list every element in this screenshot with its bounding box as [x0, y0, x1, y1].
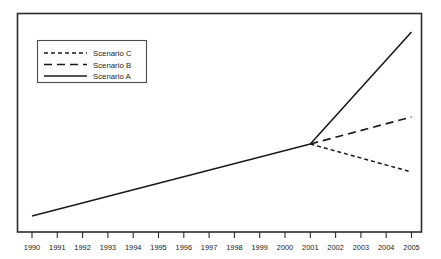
- x-tick-label-2005: 2005: [403, 243, 419, 252]
- x-tick-label-2000: 2000: [277, 243, 293, 252]
- x-tick-label-1992: 1992: [74, 243, 90, 252]
- legend-label-scenario-a: Scenario A: [93, 72, 132, 81]
- x-tick-label-1997: 1997: [201, 243, 217, 252]
- x-tick-label-1990: 1990: [24, 243, 40, 252]
- x-tick-label-1999: 1999: [251, 243, 267, 252]
- x-tick-label-1995: 1995: [150, 243, 166, 252]
- legend-label-scenario-b: Scenario B: [93, 61, 131, 70]
- x-tick-label-2004: 2004: [378, 243, 394, 252]
- legend: Scenario C Scenario B Scenario A: [38, 41, 147, 83]
- x-tick-label-1993: 1993: [100, 243, 116, 252]
- legend-label-scenario-c: Scenario C: [93, 49, 132, 58]
- x-tick-label-1991: 1991: [49, 243, 65, 252]
- x-tick-label-1998: 1998: [226, 243, 242, 252]
- x-tick-label-2001: 2001: [302, 243, 318, 252]
- chart-figure: 1990 1991 1992 1993 1994 1995 1996 1997 …: [0, 0, 441, 259]
- chart-background: [0, 0, 441, 259]
- x-tick-label-1996: 1996: [176, 243, 192, 252]
- x-tick-label-2002: 2002: [327, 243, 343, 252]
- line-chart: 1990 1991 1992 1993 1994 1995 1996 1997 …: [0, 0, 441, 259]
- x-tick-label-1994: 1994: [125, 243, 141, 252]
- x-tick-label-2003: 2003: [353, 243, 369, 252]
